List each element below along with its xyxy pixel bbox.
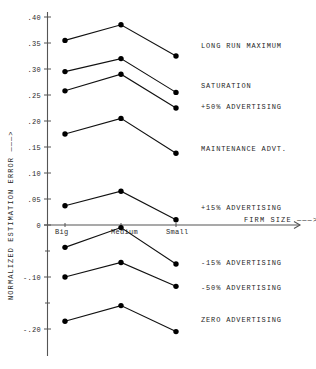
series-label: +15% ADVERTISING [201,204,282,212]
data-point [118,116,123,121]
chart-container: .40.35.30.25.20.15.10.050-.10-.20 BigMed… [0,0,316,369]
data-point [118,189,123,194]
data-point [118,225,123,230]
series-lines-group [65,25,176,332]
data-point [62,38,67,43]
data-point [62,88,67,93]
data-point [62,319,67,324]
x-category-label: Big [55,228,69,236]
y-tick-label: .05 [27,196,41,204]
data-point [173,105,178,110]
series-line [65,74,176,108]
data-point [173,329,178,334]
y-tick-label: .40 [27,14,41,22]
series-labels-group: LONG RUN MAXIMUMSATURATION+50% ADVERTISI… [201,42,287,324]
data-point [62,131,67,136]
data-point [173,151,178,156]
y-tick-label: .20 [27,118,41,126]
y-tick-label: .35 [27,40,41,48]
series-line [65,306,176,332]
y-axis-tick-labels: .40.35.30.25.20.15.10.050-.10-.20 [23,14,41,334]
y-tick-label: .10 [27,170,41,178]
data-point [62,69,67,74]
y-axis-title: NORMALIZED ESTIMATION ERROR ———> [7,130,15,300]
data-point [62,245,67,250]
data-point [118,56,123,61]
data-point [118,260,123,265]
data-point [173,261,178,266]
series-line [65,262,176,286]
series-label: MAINTENANCE ADVT. [201,145,287,153]
data-point [62,203,67,208]
series-label: ZERO ADVERTISING [201,316,282,324]
y-tick-label: .15 [27,144,41,152]
data-point [62,274,67,279]
data-point [118,72,123,77]
data-point [173,217,178,222]
series-points-group [62,22,178,334]
series-line [65,25,176,56]
x-category-label: Small [166,228,189,236]
data-point [118,22,123,27]
data-point [118,303,123,308]
series-label: LONG RUN MAXIMUM [201,42,282,50]
series-line [65,191,176,220]
series-label: +50% ADVERTISING [201,103,282,111]
series-line [65,118,176,153]
y-tick-label: 0 [36,222,41,230]
series-label: -50% ADVERTISING [201,284,282,292]
estimation-error-line-chart: .40.35.30.25.20.15.10.050-.10-.20 BigMed… [0,0,316,369]
data-point [173,90,178,95]
x-axis-title: FIRM SIZE ———> [244,216,316,224]
y-tick-label: -.10 [23,274,41,282]
data-point [173,53,178,58]
y-tick-label: .30 [27,66,41,74]
series-label: SATURATION [201,82,252,90]
series-label: -15% ADVERTISING [201,259,282,267]
data-point [173,284,178,289]
y-tick-label: .25 [27,92,41,100]
y-tick-label: -.20 [23,326,41,334]
